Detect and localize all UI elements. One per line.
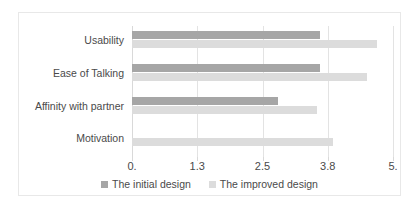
category-row: Motivation [132,124,393,157]
bar-initial [132,97,278,105]
chart-legend: The initial designThe improved design [19,179,400,190]
bar-improved [132,40,377,48]
x-tick-label: 1.3 [190,161,205,172]
legend-swatch-icon [209,181,216,188]
legend-label: The improved design [220,179,318,190]
legend-entry[interactable]: The improved design [209,179,318,190]
bar-initial [132,31,320,39]
x-tick-label: 5. [388,161,397,172]
category-label: Motivation [0,133,132,144]
legend-swatch-icon [101,181,108,188]
bar-improved [132,138,333,146]
chart-container: UsabilityEase of TalkingAffinity with pa… [18,12,401,196]
x-tick-label: 0. [127,161,136,172]
category-label: Ease of Talking [0,68,132,79]
category-row: Usability [132,26,393,59]
plot-area: UsabilityEase of TalkingAffinity with pa… [132,26,393,157]
category-label: Usability [0,35,132,46]
bar-initial [132,64,320,72]
x-tick-label: 2.5 [255,161,270,172]
category-label: Affinity with partner [0,101,132,112]
x-axis-tick-labels: 0.1.32.53.85. [132,161,393,177]
legend-entry[interactable]: The initial design [101,179,191,190]
bar-improved [132,106,317,114]
gridline-5 [393,26,394,157]
category-row: Ease of Talking [132,59,393,92]
category-row: Affinity with partner [132,92,393,125]
bar-improved [132,73,367,81]
x-tick-label: 3.8 [320,161,335,172]
legend-label: The initial design [112,179,191,190]
